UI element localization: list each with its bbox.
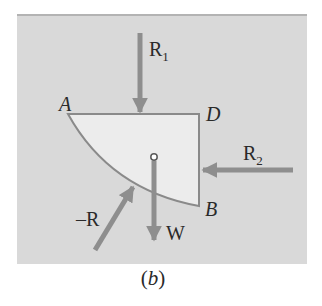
- force-w-label: W: [166, 222, 185, 244]
- vertex-label-d: D: [205, 103, 221, 125]
- vertex-label-a: A: [57, 93, 72, 115]
- force-neg-r-label: –R: [75, 208, 100, 230]
- vertex-label-b: B: [205, 198, 217, 220]
- caption-open-paren: (: [141, 266, 148, 290]
- figure-caption: (b): [0, 266, 306, 291]
- caption-close-paren: ): [158, 266, 165, 290]
- caption-letter: b: [148, 266, 159, 290]
- centroid-marker: [151, 154, 157, 160]
- free-body-diagram: R1 R2 W –R A D B: [0, 0, 322, 306]
